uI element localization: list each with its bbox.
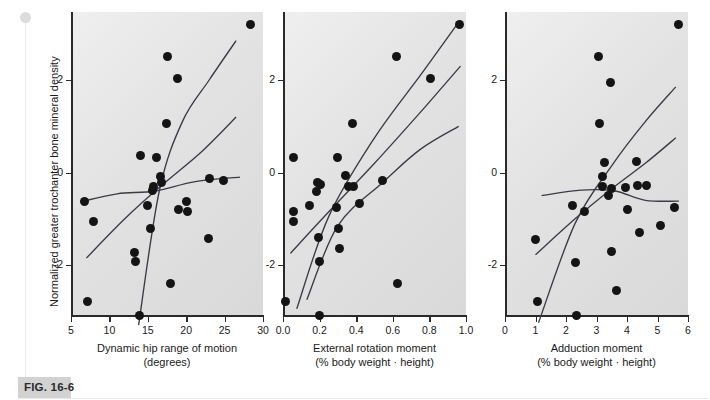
figure-plot-area: Normalized greater trochanter bone miner… <box>0 0 710 372</box>
data-point <box>568 201 577 210</box>
data-point <box>533 297 542 306</box>
data-point <box>598 182 607 191</box>
figure-caption-label: FIG. 16-6 <box>24 381 74 393</box>
data-point <box>623 205 632 214</box>
data-point <box>531 235 540 244</box>
footer-divider <box>18 398 708 399</box>
data-point <box>635 228 644 237</box>
scatter-panel-3: 20-20123456Adduction moment(% body weigh… <box>0 0 710 372</box>
data-point <box>571 258 580 267</box>
data-point <box>598 172 607 181</box>
data-point <box>600 158 609 167</box>
data-point <box>632 157 641 166</box>
figure-page: Normalized greater trochanter bone miner… <box>0 0 710 400</box>
data-point <box>670 203 679 212</box>
data-point <box>612 286 621 295</box>
upper-confidence-curve <box>539 87 676 323</box>
data-point <box>606 78 615 87</box>
data-point <box>594 52 603 61</box>
data-point <box>607 247 616 256</box>
